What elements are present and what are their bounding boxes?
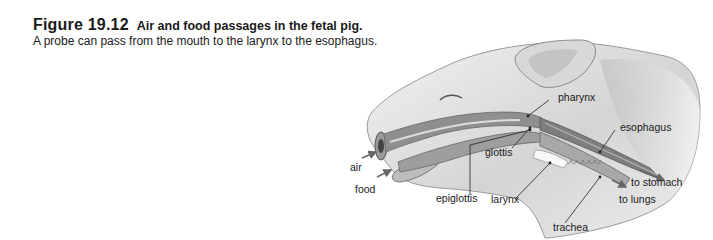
label-epiglottis: epiglottis (436, 193, 477, 204)
label-to-lungs: to lungs (619, 194, 656, 205)
label-to-stomach: to stomach (631, 177, 682, 188)
pig-head-illustration (0, 0, 713, 240)
label-air: air (350, 162, 362, 173)
label-trachea: trachea (553, 222, 588, 233)
label-food: food (355, 184, 375, 195)
label-larynx: larynx (491, 194, 519, 205)
label-esophagus: esophagus (620, 122, 671, 133)
label-pharynx: pharynx (558, 92, 595, 103)
label-glottis: glottis (485, 147, 512, 158)
